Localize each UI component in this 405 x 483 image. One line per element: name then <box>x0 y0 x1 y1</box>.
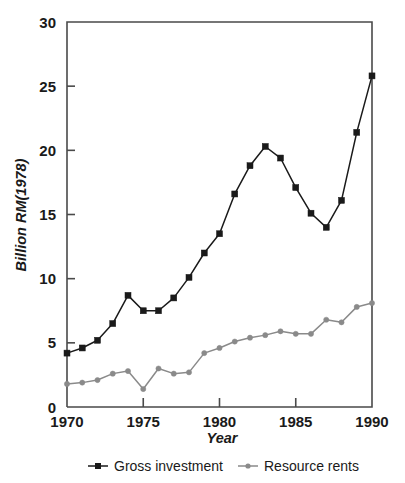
y-tick-label: 5 <box>48 334 56 351</box>
legend-label: Gross investment <box>114 458 223 474</box>
x-tick-label: 1990 <box>355 413 388 430</box>
x-tick-label: 1970 <box>50 413 83 430</box>
y-tick-label: 10 <box>39 270 56 287</box>
y-tick-label: 25 <box>39 78 56 95</box>
x-axis-title: Year <box>207 430 239 446</box>
axis-ticks <box>67 86 296 407</box>
x-tick-label: 1975 <box>127 413 160 430</box>
y-axis-tick-labels: 051015202530 <box>39 14 56 416</box>
y-tick-label: 30 <box>39 14 56 31</box>
legend-item-2[interactable]: Resource rents <box>238 458 359 474</box>
chart-figure: 051015202530 19701975198019851990 Billio… <box>0 0 405 483</box>
x-tick-label: 1985 <box>279 413 312 430</box>
x-tick-label: 1980 <box>203 413 236 430</box>
data-series-group <box>64 73 375 392</box>
y-tick-label: 20 <box>39 142 56 159</box>
y-tick-label: 15 <box>39 206 56 223</box>
legend-item-1[interactable]: Gross investment <box>88 458 223 474</box>
line-chart: 051015202530 19701975198019851990 Billio… <box>0 0 405 483</box>
y-axis-title: Billion RM(1978) <box>13 158 29 271</box>
series-1 <box>64 73 375 356</box>
legend-label: Resource rents <box>264 458 359 474</box>
x-axis-tick-labels: 19701975198019851990 <box>50 413 388 430</box>
chart-legend: Gross investmentResource rents <box>88 458 359 474</box>
series-2 <box>64 300 374 391</box>
